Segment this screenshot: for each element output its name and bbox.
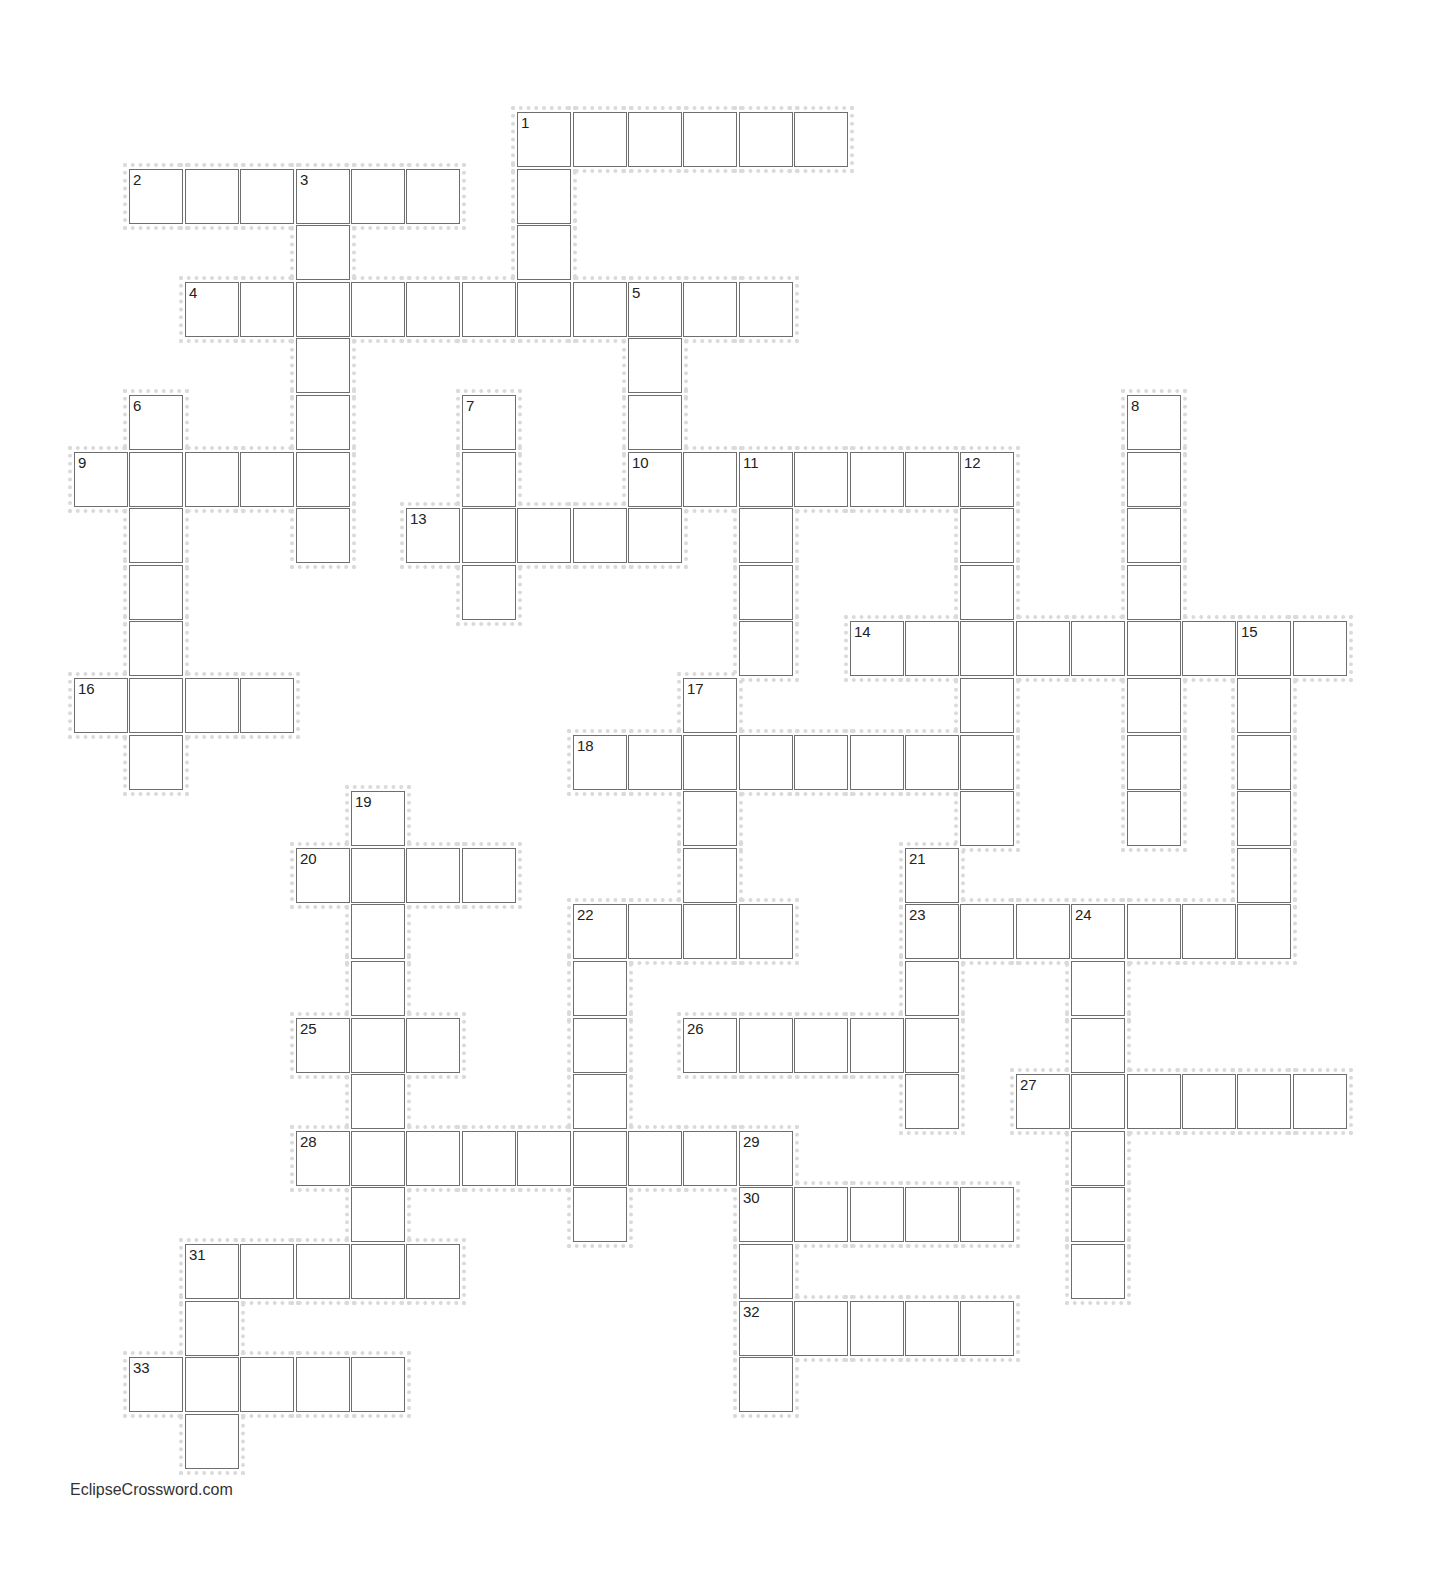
crossword-cell[interactable] xyxy=(628,338,682,393)
crossword-cell[interactable] xyxy=(296,1244,350,1299)
crossword-cell[interactable] xyxy=(850,1187,904,1242)
crossword-cell[interactable] xyxy=(850,1018,904,1073)
crossword-cell[interactable] xyxy=(573,1131,627,1186)
crossword-cell[interactable] xyxy=(1237,735,1291,790)
crossword-cell[interactable] xyxy=(739,1357,793,1412)
crossword-cell[interactable] xyxy=(1071,1187,1125,1242)
crossword-cell[interactable] xyxy=(573,282,627,337)
crossword-cell[interactable] xyxy=(517,169,571,224)
crossword-cell[interactable] xyxy=(739,904,793,959)
crossword-cell[interactable]: 21 xyxy=(905,848,959,903)
crossword-cell[interactable] xyxy=(628,395,682,450)
crossword-cell[interactable] xyxy=(296,338,350,393)
crossword-cell[interactable] xyxy=(573,1018,627,1073)
crossword-cell[interactable] xyxy=(129,452,183,507)
crossword-cell[interactable] xyxy=(129,621,183,676)
crossword-cell[interactable] xyxy=(517,282,571,337)
crossword-cell[interactable] xyxy=(351,1357,405,1412)
crossword-cell[interactable] xyxy=(905,1187,959,1242)
crossword-cell[interactable]: 27 xyxy=(1016,1074,1070,1129)
crossword-cell[interactable] xyxy=(1182,621,1236,676)
crossword-cell[interactable] xyxy=(960,1301,1014,1356)
crossword-cell[interactable] xyxy=(573,1074,627,1129)
crossword-cell[interactable] xyxy=(960,735,1014,790)
crossword-cell[interactable] xyxy=(462,565,516,620)
crossword-cell[interactable] xyxy=(739,1018,793,1073)
crossword-cell[interactable] xyxy=(960,791,1014,846)
crossword-cell[interactable] xyxy=(1071,1244,1125,1299)
crossword-cell[interactable] xyxy=(794,1187,848,1242)
crossword-cell[interactable] xyxy=(573,508,627,563)
crossword-cell[interactable] xyxy=(628,1131,682,1186)
crossword-cell[interactable]: 30 xyxy=(739,1187,793,1242)
crossword-cell[interactable]: 2 xyxy=(129,169,183,224)
crossword-cell[interactable] xyxy=(794,452,848,507)
crossword-cell[interactable] xyxy=(1237,791,1291,846)
crossword-cell[interactable] xyxy=(462,508,516,563)
crossword-cell[interactable]: 16 xyxy=(74,678,128,733)
crossword-cell[interactable] xyxy=(850,1301,904,1356)
crossword-cell[interactable]: 8 xyxy=(1127,395,1181,450)
crossword-cell[interactable] xyxy=(1127,508,1181,563)
crossword-cell[interactable] xyxy=(462,848,516,903)
crossword-cell[interactable] xyxy=(1127,452,1181,507)
crossword-cell[interactable]: 3 xyxy=(296,169,350,224)
crossword-cell[interactable] xyxy=(185,1357,239,1412)
crossword-cell[interactable] xyxy=(628,508,682,563)
crossword-cell[interactable]: 24 xyxy=(1071,904,1125,959)
crossword-cell[interactable] xyxy=(240,169,294,224)
crossword-cell[interactable] xyxy=(905,452,959,507)
crossword-cell[interactable] xyxy=(517,508,571,563)
crossword-cell[interactable]: 33 xyxy=(129,1357,183,1412)
crossword-cell[interactable] xyxy=(240,282,294,337)
crossword-cell[interactable] xyxy=(351,282,405,337)
crossword-cell[interactable]: 10 xyxy=(628,452,682,507)
crossword-cell[interactable] xyxy=(683,452,737,507)
crossword-cell[interactable] xyxy=(351,169,405,224)
crossword-cell[interactable] xyxy=(628,735,682,790)
crossword-cell[interactable] xyxy=(1237,848,1291,903)
crossword-cell[interactable] xyxy=(1071,1074,1125,1129)
crossword-cell[interactable]: 19 xyxy=(351,791,405,846)
crossword-cell[interactable] xyxy=(1127,621,1181,676)
crossword-cell[interactable] xyxy=(1127,904,1181,959)
crossword-cell[interactable] xyxy=(406,1131,460,1186)
crossword-cell[interactable] xyxy=(240,452,294,507)
eclipse-crossword-credit[interactable]: EclipseCrossword.com xyxy=(70,1481,233,1499)
crossword-cell[interactable] xyxy=(406,848,460,903)
crossword-cell[interactable] xyxy=(905,961,959,1016)
crossword-cell[interactable] xyxy=(129,565,183,620)
crossword-cell[interactable] xyxy=(628,112,682,167)
crossword-cell[interactable]: 13 xyxy=(406,508,460,563)
crossword-cell[interactable] xyxy=(406,169,460,224)
crossword-cell[interactable] xyxy=(905,1018,959,1073)
crossword-cell[interactable] xyxy=(960,508,1014,563)
crossword-cell[interactable] xyxy=(296,1357,350,1412)
crossword-cell[interactable] xyxy=(462,452,516,507)
crossword-cell[interactable] xyxy=(683,112,737,167)
crossword-cell[interactable] xyxy=(1016,904,1070,959)
crossword-cell[interactable] xyxy=(1127,791,1181,846)
crossword-cell[interactable]: 26 xyxy=(683,1018,737,1073)
crossword-cell[interactable] xyxy=(960,621,1014,676)
crossword-cell[interactable] xyxy=(1127,565,1181,620)
crossword-cell[interactable] xyxy=(683,904,737,959)
crossword-cell[interactable] xyxy=(683,282,737,337)
crossword-cell[interactable] xyxy=(351,1018,405,1073)
crossword-cell[interactable] xyxy=(794,112,848,167)
crossword-cell[interactable] xyxy=(683,848,737,903)
crossword-cell[interactable]: 17 xyxy=(683,678,737,733)
crossword-cell[interactable] xyxy=(1071,621,1125,676)
crossword-cell[interactable] xyxy=(351,1244,405,1299)
crossword-cell[interactable] xyxy=(739,508,793,563)
crossword-cell[interactable]: 5 xyxy=(628,282,682,337)
crossword-cell[interactable] xyxy=(296,452,350,507)
crossword-cell[interactable] xyxy=(462,1131,516,1186)
crossword-cell[interactable]: 25 xyxy=(296,1018,350,1073)
crossword-cell[interactable] xyxy=(240,1357,294,1412)
crossword-cell[interactable]: 9 xyxy=(74,452,128,507)
crossword-cell[interactable] xyxy=(1237,1074,1291,1129)
crossword-cell[interactable] xyxy=(739,1244,793,1299)
crossword-cell[interactable]: 6 xyxy=(129,395,183,450)
crossword-cell[interactable] xyxy=(628,904,682,959)
